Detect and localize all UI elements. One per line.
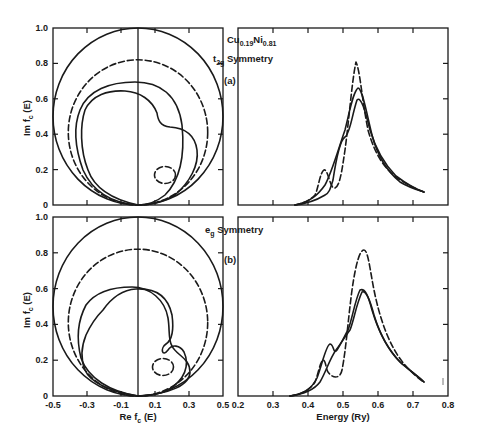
panel-a-solid-curve-2 (82, 91, 198, 205)
xlabel-energy: Energy (Ry) (316, 411, 369, 422)
ytick-b-0.4: 0.4 (35, 319, 48, 329)
panel-a-spectrum-solid-2 (295, 99, 424, 205)
ytick-a-0: 0 (43, 200, 48, 210)
panel-a-spectrum-dashed (295, 62, 424, 205)
panel-a-dashed-loop (155, 167, 176, 184)
ytick-b-1.0: 1.0 (35, 212, 48, 222)
panel-b-spectrum-frame (238, 217, 448, 396)
ylabel-a: Im fc (E) (21, 100, 34, 136)
ytick-a-1.0: 1.0 (35, 23, 48, 33)
xtick-energy-0.7: 0.7 (407, 400, 420, 410)
xtick-energy-0.2: 0.2 (232, 400, 245, 410)
panel-b-dashed-loop (153, 359, 174, 376)
panel-b-spectrum-solid-2 (290, 292, 424, 396)
ytick-a-0.4: 0.4 (35, 129, 48, 139)
xtick-energy-0.8: 0.8 (442, 400, 455, 410)
panel-a-label: (a) (224, 75, 236, 86)
xtick-re-0.1: 0.1 (149, 400, 162, 410)
ytick-b-0.2: 0.2 (35, 355, 48, 365)
panel-b-spectrum-dashed (290, 250, 424, 396)
ytick-b-0.8: 0.8 (35, 248, 48, 258)
xtick-energy-0.6: 0.6 (372, 400, 385, 410)
xtick-re-m0.1: -0.1 (113, 400, 129, 410)
ylabel-b: Im fc (E) (21, 292, 34, 328)
symmetry-label-a: t2g Symmetry (213, 53, 274, 67)
xtick-re-0.5: 0.5 (217, 400, 230, 410)
xtick-re-0.3: 0.3 (183, 400, 196, 410)
ytick-a-0.6: 0.6 (35, 94, 48, 104)
panel-b-label: (b) (224, 254, 236, 265)
figure-canvas: 1.0 0.8 0.6 0.4 0.2 0 (0, 0, 477, 441)
xtick-re-m0.5: -0.5 (45, 400, 61, 410)
panel-b-spectrum-ticks (273, 217, 448, 396)
xtick-re-m0.3: -0.3 (79, 400, 95, 410)
panel-a-spectrum-ticks (273, 28, 448, 205)
panel-a-argand: 1.0 0.8 0.6 0.4 0.2 0 (35, 23, 223, 210)
xlabel-re: Re fc (E) (119, 411, 156, 424)
panel-b-argand: 1.0 0.8 0.6 0.4 0.2 0 -0.5 -0.3 -0.1 0.1… (35, 212, 229, 410)
symmetry-label-b: eg Symmetry (205, 224, 264, 238)
composition-label: Cu0.19Ni0.81 (227, 34, 277, 47)
panel-a-spectrum-solid-1 (295, 88, 424, 205)
xtick-energy-0.4: 0.4 (302, 400, 315, 410)
ytick-a-0.8: 0.8 (35, 58, 48, 68)
panel-b-spectrum: 0.2 0.3 0.4 0.5 0.6 0.7 0.8 (232, 217, 455, 410)
xtick-energy-0.3: 0.3 (267, 400, 280, 410)
ytick-a-0.2: 0.2 (35, 165, 48, 175)
xtick-energy-0.5: 0.5 (337, 400, 350, 410)
ytick-b-0.6: 0.6 (35, 284, 48, 294)
